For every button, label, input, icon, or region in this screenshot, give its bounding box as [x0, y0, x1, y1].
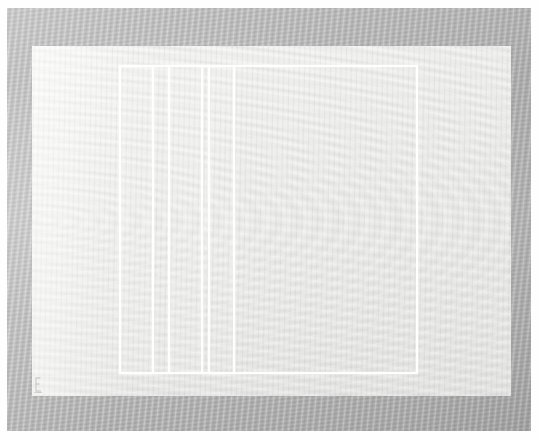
band-e [210, 67, 233, 372]
paper-wave-texture [32, 46, 511, 396]
paper-weave-texture-horizontal [32, 46, 511, 396]
paper-weave-texture-diagonal [32, 46, 511, 396]
main-rectangle-outline [119, 65, 418, 374]
paper-left-highlight [32, 46, 128, 396]
drawn-composition [32, 46, 511, 396]
rule-5 [233, 65, 235, 374]
rule-1 [152, 65, 154, 374]
band-a [121, 67, 152, 372]
band-c [170, 67, 201, 372]
band-d [203, 67, 208, 372]
rule-2 [168, 65, 170, 374]
band-b [154, 67, 168, 372]
rule-3 [201, 65, 203, 374]
paper-sheet [32, 46, 511, 396]
band-f [235, 67, 416, 372]
rule-4 [208, 65, 210, 374]
artwork-canvas [0, 0, 539, 440]
pencil-signature-mark [33, 376, 46, 393]
